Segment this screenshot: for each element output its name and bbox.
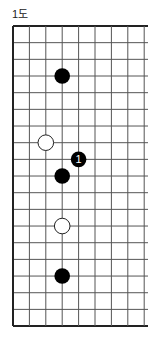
black-stone xyxy=(54,168,70,184)
black-stone: 1 xyxy=(71,152,87,168)
white-stone xyxy=(38,135,54,151)
move-number-label: 1 xyxy=(76,153,82,165)
black-stone xyxy=(54,268,70,284)
black-stone xyxy=(54,68,70,84)
white-stone xyxy=(54,218,70,234)
go-board: 1 xyxy=(0,0,158,342)
board-grid xyxy=(13,26,148,326)
